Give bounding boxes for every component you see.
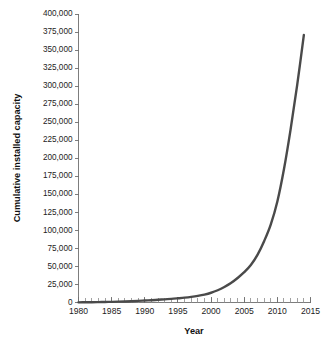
y-tick-label: 75,000 [47,244,72,253]
y-tick-label: 325,000 [43,63,73,72]
y-tick-label: 175,000 [43,171,73,180]
y-tick-label: 250,000 [43,117,73,126]
x-tick-label: 2005 [235,306,254,316]
y-tick-label: 50,000 [47,262,72,271]
y-tick-label: 25,000 [47,280,72,289]
x-tick-label: 2015 [301,306,320,316]
y-tick-label: 375,000 [43,27,73,36]
y-tick-label: 100,000 [43,226,73,235]
x-tick-label: 2000 [202,306,221,316]
x-tick-label: 1990 [135,306,154,316]
y-tick-label: 225,000 [43,135,73,144]
y-tick-label: 275,000 [43,99,73,108]
y-axis-title: Cumulative installed capacity [12,93,22,223]
y-tick-label: 400,000 [43,9,73,18]
x-axis-title: Year [184,326,204,336]
y-axis-tick-labels: 025,00050,00075,000100,000125,000150,000… [43,9,73,307]
y-tick-label: 150,000 [43,189,73,198]
y-tick-label: 300,000 [43,81,73,90]
y-tick-label: 350,000 [43,45,73,54]
x-tick-label: 1980 [69,306,88,316]
x-tick-label: 1985 [102,306,121,316]
chart-figure: 025,00050,00075,000100,000125,000150,000… [0,0,329,348]
x-tick-label: 2010 [268,306,287,316]
y-tick-label: 200,000 [43,153,73,162]
y-tick-label: 125,000 [43,208,73,217]
x-tick-label: 1995 [168,306,187,316]
chart-canvas: 025,00050,00075,000100,000125,000150,000… [0,0,329,348]
